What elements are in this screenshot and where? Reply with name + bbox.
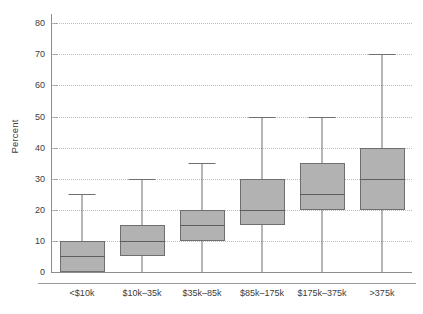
upper-whisker-line [82, 194, 83, 241]
median-line [360, 179, 405, 180]
gridline-40 [52, 148, 412, 149]
y-tick-label-80: 80 [14, 18, 52, 28]
plot-area [52, 14, 412, 272]
x-tick-label-0: <$10k [70, 288, 95, 298]
x-tick-label-4: $175k–375k [297, 288, 346, 298]
lower-whisker-line [202, 241, 203, 272]
upper-whisker-line [142, 179, 143, 226]
box-plot-item[interactable] [120, 14, 165, 272]
upper-whisker-cap [69, 194, 96, 195]
box-plot-item[interactable] [240, 14, 285, 272]
gridline-10 [52, 241, 412, 242]
gridline-30 [52, 179, 412, 180]
upper-whisker-cap [129, 179, 156, 180]
box-plot-item[interactable] [60, 14, 105, 272]
y-tick-label-30: 30 [14, 174, 52, 184]
y-axis-line [51, 14, 52, 273]
upper-whisker-cap [189, 163, 216, 164]
y-tick-label-0: 0 [14, 267, 52, 277]
median-line [300, 194, 345, 195]
median-line [180, 225, 225, 226]
upper-whisker-line [382, 54, 383, 147]
upper-whisker-line [262, 117, 263, 179]
median-line [60, 256, 105, 257]
upper-whisker-cap [249, 117, 276, 118]
box-plot-item[interactable] [180, 14, 225, 272]
lower-whisker-line [322, 210, 323, 272]
upper-whisker-cap [309, 117, 336, 118]
x-axis-baseline [38, 283, 416, 284]
upper-whisker-line [202, 163, 203, 210]
y-axis-ticks: 01020304050607080 [14, 0, 52, 314]
x-axis-line [51, 272, 412, 273]
x-tick-label-1: $10k–35k [122, 288, 161, 298]
upper-whisker-cap [369, 54, 396, 55]
x-tick-label-3: $85k–175k [240, 288, 284, 298]
upper-whisker-line [322, 117, 323, 164]
y-tick-label-70: 70 [14, 49, 52, 59]
y-tick-label-60: 60 [14, 80, 52, 90]
median-line [240, 210, 285, 211]
y-tick-label-50: 50 [14, 112, 52, 122]
gridline-60 [52, 85, 412, 86]
box-rect[interactable] [240, 179, 285, 226]
gridline-50 [52, 117, 412, 118]
boxplot-chart: Percent 01020304050607080 <$10k$10k–35k$… [0, 0, 423, 314]
x-tick-label-2: $35k–85k [182, 288, 221, 298]
lower-whisker-line [382, 210, 383, 272]
x-tick-label-5: >375k [370, 288, 395, 298]
gridline-80 [52, 23, 412, 24]
x-axis-labels: <$10k$10k–35k$35k–85k$85k–175k$175k–375k… [52, 288, 412, 308]
lower-whisker-line [262, 225, 263, 272]
box-plot-item[interactable] [360, 14, 405, 272]
gridline-70 [52, 54, 412, 55]
lower-whisker-line [142, 256, 143, 272]
median-line [120, 241, 165, 242]
box-rect[interactable] [300, 163, 345, 210]
y-tick-label-20: 20 [14, 205, 52, 215]
box-plot-item[interactable] [300, 14, 345, 272]
y-tick-label-10: 10 [14, 236, 52, 246]
y-tick-label-40: 40 [14, 143, 52, 153]
gridline-20 [52, 210, 412, 211]
